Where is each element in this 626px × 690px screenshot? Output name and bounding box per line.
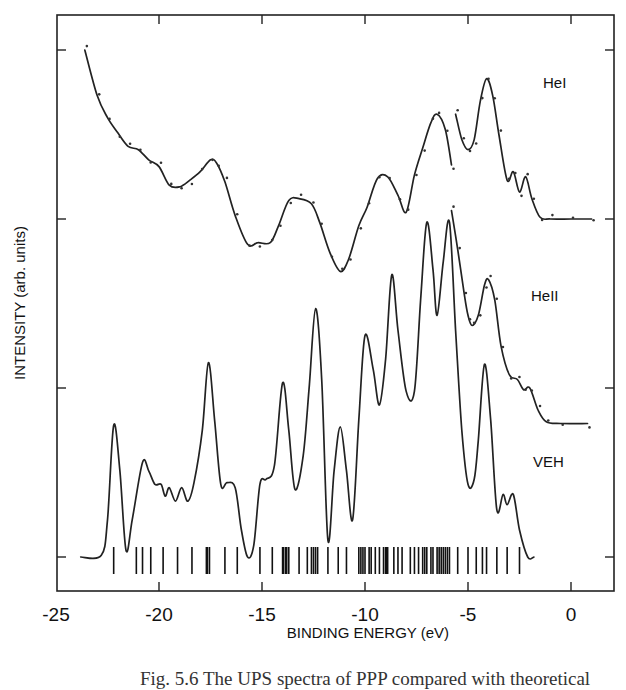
spectra-curves xyxy=(81,50,592,559)
data-dot xyxy=(160,161,163,164)
data-dot xyxy=(108,118,111,121)
data-dot xyxy=(226,177,229,180)
data-dot xyxy=(149,161,152,164)
data-dot xyxy=(508,178,511,181)
data-dot xyxy=(271,239,274,242)
x-axis-tick-labels: -25-20-15-10-50 xyxy=(42,604,576,625)
data-dot xyxy=(469,150,472,153)
data-dot xyxy=(475,142,478,145)
y-axis-label: INTENSITY (arb. units) xyxy=(11,226,28,380)
curve-veh xyxy=(81,220,534,559)
data-dot xyxy=(452,205,455,208)
data-dot xyxy=(289,202,292,205)
x-tick-label: -20 xyxy=(145,604,172,625)
x-tick-label: -15 xyxy=(248,604,275,625)
data-dot xyxy=(170,183,173,186)
data-dot xyxy=(500,129,503,132)
data-dot xyxy=(465,292,468,295)
data-dot xyxy=(300,194,303,197)
data-dot xyxy=(479,314,482,317)
figure-caption: Fig. 5.6 The UPS spectra of PPP compared… xyxy=(140,668,590,690)
x-tick-label: 0 xyxy=(566,604,577,625)
data-dot xyxy=(180,187,183,190)
data-dot xyxy=(341,267,344,270)
data-dot xyxy=(524,388,527,391)
data-dot xyxy=(561,423,564,426)
data-dot xyxy=(592,219,595,222)
data-dot xyxy=(201,168,204,171)
curve-heii xyxy=(452,211,588,424)
data-dot xyxy=(510,377,513,380)
data-dot xyxy=(541,219,544,222)
x-tick-label: -5 xyxy=(460,604,477,625)
data-dot xyxy=(485,286,488,289)
data-dot xyxy=(446,129,449,132)
data-dot xyxy=(526,173,529,176)
data-dot xyxy=(349,258,352,261)
data-dot xyxy=(86,45,89,48)
data-dot xyxy=(312,201,315,204)
data-dot xyxy=(572,216,575,219)
data-dot xyxy=(279,224,282,227)
x-axis-label: BINDING ENERGY (eV) xyxy=(287,624,449,641)
data-dot xyxy=(248,244,251,247)
data-dot xyxy=(129,142,132,145)
data-dot xyxy=(432,117,435,120)
curve-hei xyxy=(456,79,592,220)
data-dot xyxy=(588,426,591,429)
data-dot xyxy=(493,97,496,100)
data-dot xyxy=(139,148,142,151)
data-dot xyxy=(469,318,472,321)
data-dot xyxy=(191,183,194,186)
data-dot xyxy=(378,176,381,179)
data-dot xyxy=(502,346,505,349)
data-dot xyxy=(388,177,391,180)
data-dot xyxy=(438,112,441,115)
data-dot xyxy=(518,376,521,379)
data-dot xyxy=(489,275,492,278)
data-dot xyxy=(407,208,410,211)
veh-state-markers xyxy=(114,547,520,574)
data-dot xyxy=(547,419,550,422)
data-dot xyxy=(539,405,542,408)
data-dot xyxy=(551,214,554,217)
data-dot xyxy=(119,135,122,138)
data-dot xyxy=(452,168,455,171)
data-dot xyxy=(481,97,484,100)
series-label-veh: VEH xyxy=(533,453,564,470)
data-dot xyxy=(463,137,466,140)
data-dot xyxy=(495,298,498,301)
data-dot xyxy=(259,245,262,248)
data-dot xyxy=(368,202,371,205)
curve-hei xyxy=(85,50,452,272)
x-tick-label: -25 xyxy=(42,604,69,625)
data-dot xyxy=(533,197,536,200)
data-dot xyxy=(236,213,239,216)
data-dot xyxy=(514,172,517,175)
data-dot xyxy=(360,227,363,230)
data-dot xyxy=(458,247,461,250)
x-axis-ticks xyxy=(159,15,571,591)
data-dot xyxy=(473,322,476,325)
experimental-data-dots xyxy=(86,45,595,429)
data-dot xyxy=(331,255,334,258)
x-tick-label: -10 xyxy=(351,604,378,625)
data-dot xyxy=(423,149,426,152)
data-dot xyxy=(456,109,459,112)
data-dot xyxy=(415,174,418,177)
data-dot xyxy=(399,198,402,201)
data-dot xyxy=(520,195,523,198)
series-label-heii: HeII xyxy=(531,287,559,304)
data-dot xyxy=(320,222,323,225)
data-dot xyxy=(211,159,214,162)
series-label-hei: HeI xyxy=(543,74,566,91)
data-dot xyxy=(531,389,534,392)
data-dot xyxy=(487,77,490,80)
data-dot xyxy=(217,165,220,168)
data-dot xyxy=(98,93,101,96)
